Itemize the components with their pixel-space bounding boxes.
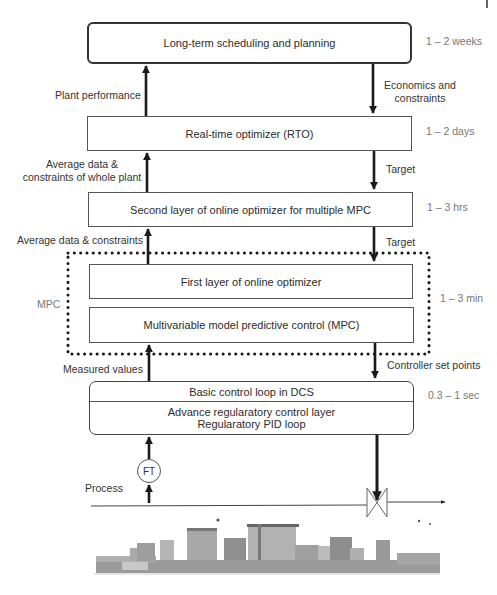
label-process: Process xyxy=(85,482,123,495)
mpc-group-boundary xyxy=(68,253,429,354)
label-line: Economics and xyxy=(380,79,460,92)
ft-label: FT xyxy=(143,466,155,477)
label-line: constraints xyxy=(380,92,460,105)
label-economics-constraints: Economics and constraints xyxy=(380,79,460,105)
time-hrs: 1 – 3 hrs xyxy=(427,201,468,213)
label-average-data-constraints: Average data & constraints xyxy=(17,234,143,247)
label-controller-set-points: Controller set points xyxy=(387,359,480,372)
process-line xyxy=(91,505,369,506)
downward-arrows xyxy=(373,64,377,500)
time-weeks: 1 – 2 weeks xyxy=(426,35,482,47)
label-target-2: Target xyxy=(386,236,415,249)
label-average-data-whole-plant: Average data & constraints of whole plan… xyxy=(22,158,142,184)
time-days: 1 – 2 days xyxy=(426,125,474,137)
time-sec: 0.3 – 1 sec xyxy=(428,389,479,401)
flow-transmitter-icon: FT xyxy=(137,459,161,483)
label-mpc-group: MPC xyxy=(37,298,60,311)
label-line: constraints of whole plant xyxy=(22,171,142,184)
time-min: 1 – 3 min xyxy=(440,292,483,304)
plant-illustration xyxy=(94,518,440,575)
label-line: Average data & xyxy=(22,158,142,171)
upward-arrows xyxy=(146,66,149,503)
label-plant-performance: Plant performance xyxy=(55,89,141,102)
label-target-1: Target xyxy=(386,163,415,176)
label-measured-values: Measured values xyxy=(63,363,143,376)
